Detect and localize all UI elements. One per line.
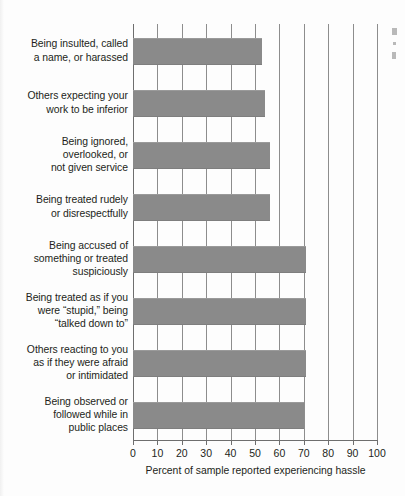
margin-mark-3 xyxy=(392,52,396,59)
category-label-line: something or treated xyxy=(6,252,128,265)
x-tick-label-0: 0 xyxy=(130,447,136,459)
gridline-0 xyxy=(133,24,134,440)
gridline-60 xyxy=(279,24,280,440)
category-label-line: Being treated as if you xyxy=(6,291,128,304)
x-tick-30 xyxy=(206,440,207,445)
category-label: Being ignored,overlooked, ornot given se… xyxy=(6,135,128,175)
x-tick-label-10: 10 xyxy=(152,447,164,459)
x-tick-label-80: 80 xyxy=(322,447,334,459)
x-tick-label-50: 50 xyxy=(249,447,261,459)
category-label-line: or intimidated xyxy=(6,369,128,382)
category-label: Being insulted, calleda name, or harasse… xyxy=(6,37,128,63)
x-tick-60 xyxy=(279,440,280,445)
margin-mark-1 xyxy=(392,28,397,35)
category-label: Others expecting yourwork to be inferior xyxy=(6,89,128,115)
bar xyxy=(133,38,262,65)
category-label-line: “talked down to” xyxy=(6,317,128,330)
x-tick-40 xyxy=(231,440,232,445)
x-tick-10 xyxy=(157,440,158,445)
x-tick-20 xyxy=(182,440,183,445)
bar xyxy=(133,90,265,117)
gridline-20 xyxy=(182,24,183,440)
x-tick-70 xyxy=(304,440,305,445)
category-label: Being treated rudelyor disrespectfully xyxy=(6,193,128,219)
category-label-line: Being insulted, called xyxy=(6,37,128,50)
category-label-line: Being accused of xyxy=(6,239,128,252)
margin-mark-2 xyxy=(393,42,396,45)
x-tick-label-20: 20 xyxy=(176,447,188,459)
bar xyxy=(133,194,270,221)
category-label: Being accused ofsomething or treatedsusp… xyxy=(6,239,128,279)
x-tick-label-70: 70 xyxy=(298,447,310,459)
gridline-10 xyxy=(157,24,158,440)
bar xyxy=(133,402,304,429)
x-tick-label-30: 30 xyxy=(200,447,212,459)
category-label-line: public places xyxy=(6,421,128,434)
gridline-90 xyxy=(353,24,354,440)
x-tick-label-40: 40 xyxy=(225,447,237,459)
bar xyxy=(133,246,306,273)
gridline-80 xyxy=(328,24,329,440)
x-tick-label-60: 60 xyxy=(274,447,286,459)
gridline-100 xyxy=(377,24,378,440)
category-label: Being observed orfollowed while inpublic… xyxy=(6,395,128,435)
category-label-line: Others expecting your xyxy=(6,89,128,102)
category-label-line: Being observed or xyxy=(6,395,128,408)
category-label-line: overlooked, or xyxy=(6,148,128,161)
bar xyxy=(133,142,270,169)
plot-area xyxy=(133,24,377,440)
category-label-line: were “stupid,” being xyxy=(6,304,128,317)
x-tick-90 xyxy=(353,440,354,445)
gridline-70 xyxy=(304,24,305,440)
category-label-line: a name, or harassed xyxy=(6,51,128,64)
x-tick-label-100: 100 xyxy=(368,447,386,459)
category-label: Being treated as if youwere “stupid,” be… xyxy=(6,291,128,331)
category-label-line: Being treated rudely xyxy=(6,193,128,206)
category-label-line: Being ignored, xyxy=(6,135,128,148)
category-label-line: Others reacting to you xyxy=(6,343,128,356)
category-label-line: suspiciously xyxy=(6,265,128,278)
horizontal-bar-chart: Being insulted, calleda name, or harasse… xyxy=(0,0,405,496)
category-label-line: or disrespectfully xyxy=(6,207,128,220)
category-label: Others reacting to youas if they were af… xyxy=(6,343,128,383)
bar xyxy=(133,350,306,377)
category-label-column: Being insulted, calleda name, or harasse… xyxy=(6,24,128,440)
margin-artifact-marks xyxy=(392,28,404,72)
gridline-50 xyxy=(255,24,256,440)
x-tick-100 xyxy=(377,440,378,445)
gridline-40 xyxy=(231,24,232,440)
x-tick-50 xyxy=(255,440,256,445)
gridline-30 xyxy=(206,24,207,440)
page-edge-shading xyxy=(0,0,4,496)
x-axis-title: Percent of sample reported experiencing … xyxy=(133,464,378,477)
category-label-line: followed while in xyxy=(6,408,128,421)
x-tick-label-90: 90 xyxy=(347,447,359,459)
category-label-line: work to be inferior xyxy=(6,103,128,116)
category-label-line: as if they were afraid xyxy=(6,356,128,369)
x-tick-80 xyxy=(328,440,329,445)
x-tick-0 xyxy=(133,440,134,445)
category-label-line: not given service xyxy=(6,161,128,174)
bar xyxy=(133,298,306,325)
